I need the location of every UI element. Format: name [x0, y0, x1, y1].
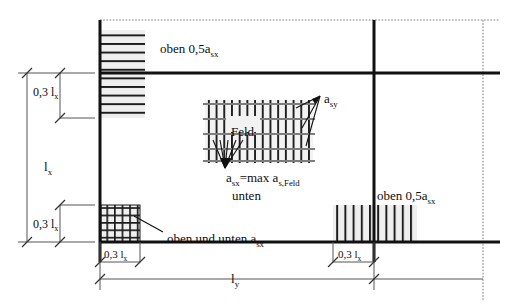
label-corner-zone: oben und unten asx [167, 232, 264, 248]
dimension-label-03lx-bottom-left: 0,3 lx [104, 249, 127, 263]
dimension-label-lx: lx [44, 160, 52, 176]
label-field: Feld [231, 125, 254, 138]
field-reinforcement-grid [203, 100, 315, 163]
reinforcement-diagram: oben 0,5asx oben 0,5asx Feld asy asx=max… [0, 0, 507, 304]
label-right-support: oben 0,5asx [377, 189, 435, 205]
dimension-lines-bottom [95, 242, 483, 290]
label-top-support: oben 0,5asx [160, 42, 218, 58]
dimension-label-03lx-bottom-right: 0,3 lx [338, 249, 361, 263]
label-unten: unten [232, 189, 261, 202]
dimension-label-ly: ly [231, 272, 239, 288]
label-field-value: asx=max as,Feld [226, 171, 300, 187]
diagram-canvas [0, 0, 507, 304]
label-asy: asy [324, 92, 338, 108]
dimension-label-03lx-bottom: 0,3 lx [33, 218, 58, 234]
corner-cross-hatch-zone [101, 205, 140, 242]
dimension-label-03lx-top: 0,3 lx [33, 86, 58, 102]
